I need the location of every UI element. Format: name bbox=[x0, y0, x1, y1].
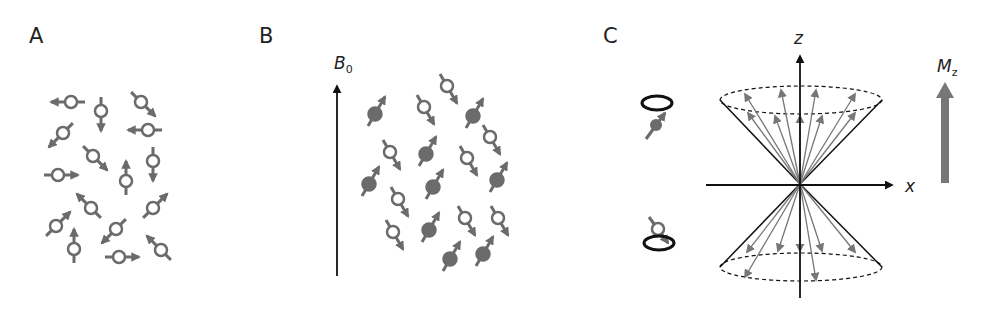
spin-filled-icon bbox=[490, 163, 507, 192]
spin-open-icon bbox=[68, 229, 80, 263]
spin-open-icon bbox=[131, 92, 155, 116]
spin-open-icon bbox=[83, 146, 107, 170]
spin-open-icon bbox=[147, 147, 159, 181]
spin-up-precession-icon bbox=[642, 96, 672, 139]
spin-open-icon bbox=[44, 169, 78, 181]
precession-cones bbox=[720, 86, 882, 281]
spin-open-icon bbox=[391, 187, 408, 216]
panel-b-aligned-spins bbox=[362, 74, 508, 271]
spin-open-icon bbox=[49, 123, 73, 147]
spin-open-icon bbox=[383, 140, 400, 169]
spin-open-icon bbox=[77, 194, 101, 218]
spin-open-icon bbox=[120, 161, 132, 195]
spin-filled-icon bbox=[443, 242, 460, 271]
spin-filled-icon bbox=[426, 170, 443, 199]
spin-open-icon bbox=[95, 97, 107, 131]
spin-open-icon bbox=[460, 146, 477, 175]
spin-open-icon bbox=[51, 96, 85, 108]
panel-a-random-spins bbox=[44, 92, 171, 263]
spin-open-icon bbox=[458, 206, 475, 235]
spin-open-icon bbox=[143, 194, 167, 218]
spin-down-precession-icon bbox=[644, 217, 674, 250]
spin-open-icon bbox=[105, 251, 139, 263]
mz-net-magnetization-arrow bbox=[936, 82, 954, 183]
spin-open-icon bbox=[417, 95, 434, 124]
spin-filled-icon bbox=[368, 97, 385, 126]
spin-filled-icon bbox=[362, 167, 379, 196]
spin-filled-icon bbox=[476, 237, 493, 266]
spin-open-icon bbox=[440, 74, 457, 103]
spin-filled-icon bbox=[419, 137, 436, 166]
figure-canvas bbox=[0, 0, 986, 315]
spin-open-icon bbox=[386, 220, 403, 249]
spin-open-icon bbox=[483, 125, 500, 154]
spin-open-icon bbox=[102, 219, 126, 243]
spin-filled-icon bbox=[422, 213, 439, 242]
spin-open-icon bbox=[46, 212, 70, 236]
spin-open-icon bbox=[128, 124, 162, 136]
spin-open-icon bbox=[147, 236, 171, 260]
spin-open-icon bbox=[491, 206, 508, 235]
spin-filled-icon bbox=[466, 99, 483, 128]
